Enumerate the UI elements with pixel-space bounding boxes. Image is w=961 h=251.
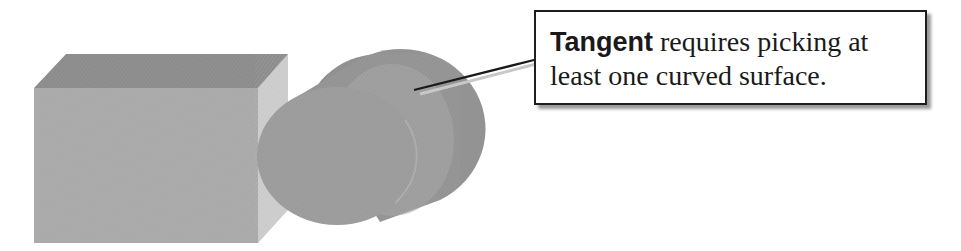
cylinder-shape [255, 49, 485, 229]
cylinder-texture [255, 54, 460, 229]
callout-line-2: least one curved surface. [550, 59, 915, 92]
callout-line-1: Tangent requires picking at [550, 25, 915, 59]
callout-box: Tangent requires picking at least one cu… [534, 10, 927, 105]
callout-term: Tangent [550, 27, 653, 57]
box-shape [34, 54, 288, 243]
callout-line-1-text: requires picking at [653, 26, 868, 57]
box-texture [34, 54, 288, 243]
